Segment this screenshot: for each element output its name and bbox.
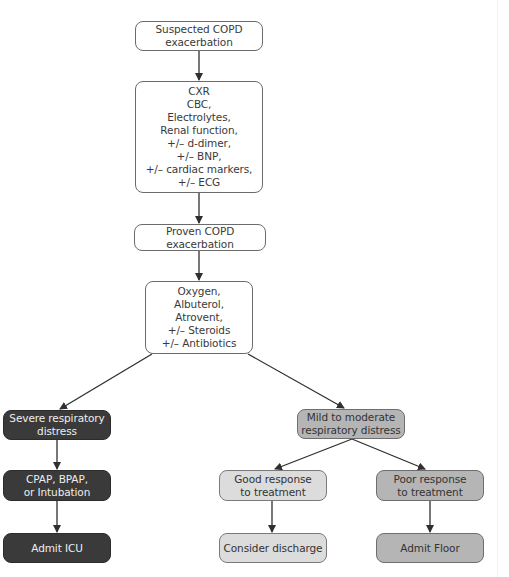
arrow-treatment-to-mild xyxy=(248,354,344,408)
arrow-mild-to-good xyxy=(275,439,352,469)
node-proven-copd: Proven COPD exacerbation xyxy=(134,224,266,251)
node-good-response: Good response to treatment xyxy=(219,470,327,501)
node-severe-distress: Severe respiratory distress xyxy=(3,410,111,440)
arrow-treatment-to-severe xyxy=(60,354,152,409)
node-label: Mild to moderate respiratory distress xyxy=(301,411,400,437)
node-consider-discharge: Consider discharge xyxy=(219,533,327,563)
node-suspected-copd: Suspected COPD exacerbation xyxy=(135,21,263,51)
node-mild-distress: Mild to moderate respiratory distress xyxy=(297,409,405,439)
node-label: CPAP, BPAP, or Intubation xyxy=(24,473,91,499)
node-treatment: Oxygen, Albuterol, Atrovent, +/– Steroid… xyxy=(145,281,253,354)
node-poor-response: Poor response to treatment xyxy=(376,470,484,501)
node-label: Severe respiratory distress xyxy=(9,412,104,438)
node-label: CXR CBC, Electrolytes, Renal function, +… xyxy=(146,85,253,189)
node-admit-icu: Admit ICU xyxy=(3,533,111,563)
node-label: Admit Floor xyxy=(400,542,459,555)
node-admit-floor: Admit Floor xyxy=(376,533,484,563)
node-label: Oxygen, Albuterol, Atrovent, +/– Steroid… xyxy=(162,285,237,350)
node-label: Admit ICU xyxy=(31,542,82,555)
arrow-mild-to-poor xyxy=(352,439,425,469)
node-label: Proven COPD exacerbation xyxy=(135,225,265,251)
node-label: Suspected COPD exacerbation xyxy=(156,23,243,49)
node-label: Good response to treatment xyxy=(234,473,311,499)
node-label: Consider discharge xyxy=(224,542,323,555)
node-workup: CXR CBC, Electrolytes, Renal function, +… xyxy=(135,81,263,193)
node-ventilation: CPAP, BPAP, or Intubation xyxy=(3,470,111,501)
node-label: Poor response to treatment xyxy=(394,473,467,499)
